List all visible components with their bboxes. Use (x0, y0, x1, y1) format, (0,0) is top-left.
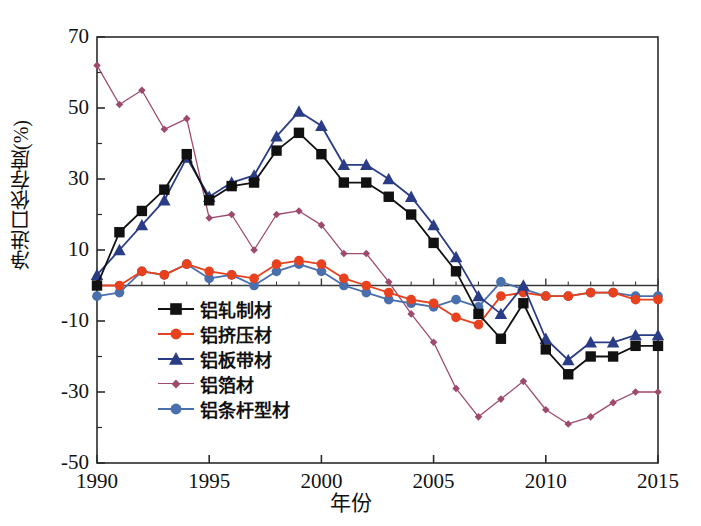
data-point-marker (138, 86, 146, 94)
data-point-marker (273, 211, 281, 219)
legend-item-4[interactable]: 铝箔材 (158, 371, 290, 396)
chart-legend: 铝轧制材铝挤压材铝板带材铝箔材铝条杆型材 (158, 296, 290, 421)
legend-item-5[interactable]: 铝条杆型材 (158, 396, 290, 421)
data-point-marker (450, 251, 463, 262)
data-point-marker (137, 266, 147, 276)
data-point-marker (631, 295, 641, 305)
data-point-marker (382, 173, 395, 184)
data-point-marker (496, 334, 506, 344)
data-point-marker (429, 298, 439, 308)
data-point-marker (451, 313, 461, 323)
legend-item-label: 铝挤压材 (200, 321, 272, 347)
data-point-marker (518, 298, 528, 308)
x-tick-label: 2000 (281, 471, 361, 492)
x-tick-label: 2010 (506, 471, 586, 492)
data-point-marker (228, 211, 236, 219)
x-tick-label: 2015 (618, 471, 698, 492)
data-point-marker (564, 420, 572, 428)
data-point-marker (541, 291, 551, 301)
data-point-marker (317, 259, 327, 269)
data-point-marker (182, 259, 192, 269)
data-point-marker (339, 177, 349, 187)
data-point-marker (161, 126, 169, 134)
data-point-marker (183, 115, 191, 123)
data-point-marker (295, 207, 303, 215)
data-point-marker (272, 259, 282, 269)
data-point-marker (563, 291, 573, 301)
data-point-marker (384, 192, 394, 202)
data-point-marker (428, 238, 438, 248)
data-point-marker (315, 120, 328, 131)
data-point-marker (587, 413, 595, 421)
legend-item-label: 铝条杆型材 (200, 396, 290, 422)
data-point-marker (316, 149, 326, 159)
legend-marker-icon (158, 300, 194, 318)
data-point-marker (474, 320, 484, 330)
data-point-marker (169, 352, 183, 365)
legend-item-1[interactable]: 铝轧制材 (158, 296, 290, 321)
data-point-marker (116, 101, 124, 109)
data-point-marker (250, 246, 258, 254)
data-point-marker (630, 341, 640, 351)
chart-container: 净进口依存度(%) 年份 -50-30-1010305070 199019952… (0, 0, 701, 526)
data-point-marker (93, 62, 101, 70)
data-point-marker (632, 388, 640, 396)
data-point-marker (496, 277, 506, 287)
data-point-marker (653, 341, 663, 351)
data-point-marker (563, 369, 573, 379)
data-point-marker (92, 291, 102, 301)
data-point-marker (249, 274, 259, 284)
y-tick-label: 10 (31, 239, 89, 260)
data-point-marker (205, 214, 213, 222)
data-point-marker (339, 274, 349, 284)
data-point-marker (654, 388, 662, 396)
legend-marker-icon (158, 375, 194, 393)
legend-item-3[interactable]: 铝板带材 (158, 346, 290, 371)
x-tick-label: 1995 (169, 471, 249, 492)
data-point-marker (384, 288, 394, 298)
data-point-marker (653, 295, 663, 305)
legend-marker-icon (158, 325, 194, 343)
data-point-marker (294, 128, 304, 138)
data-point-marker (137, 206, 147, 216)
data-point-marker (204, 195, 214, 205)
data-point-marker (294, 256, 304, 266)
data-point-marker (171, 328, 182, 339)
data-point-marker (158, 194, 171, 205)
data-point-marker (115, 281, 125, 291)
data-point-marker (406, 295, 416, 305)
data-point-marker (361, 177, 371, 187)
data-point-marker (170, 303, 182, 315)
data-point-marker (406, 209, 416, 219)
y-tick-label: 30 (31, 168, 89, 189)
data-point-marker (609, 399, 617, 407)
legend-item-label: 铝轧制材 (200, 296, 272, 322)
legend-marker-icon (158, 350, 194, 368)
legend-item-label: 铝板带材 (200, 346, 272, 372)
y-tick-label: 70 (31, 26, 89, 47)
data-point-marker (182, 149, 192, 159)
data-point-marker (227, 270, 237, 280)
data-point-marker (496, 291, 506, 301)
data-point-marker (608, 351, 618, 361)
data-point-marker (226, 181, 236, 191)
data-point-marker (159, 184, 169, 194)
data-point-marker (608, 288, 618, 298)
data-point-marker (541, 344, 551, 354)
y-tick-label: 50 (31, 97, 89, 118)
data-point-marker (271, 145, 281, 155)
legend-marker-icon (158, 400, 194, 418)
data-point-marker (249, 177, 259, 187)
data-point-marker (159, 270, 169, 280)
x-tick-label: 2005 (394, 471, 474, 492)
data-point-marker (473, 309, 483, 319)
legend-item-2[interactable]: 铝挤压材 (158, 321, 290, 346)
data-point-marker (172, 379, 181, 388)
x-tick-label: 1990 (57, 471, 137, 492)
data-point-marker (204, 266, 214, 276)
data-point-marker (114, 227, 124, 237)
y-tick-label: -10 (31, 310, 89, 331)
y-tick-label: -30 (31, 381, 89, 402)
data-point-marker (585, 351, 595, 361)
data-point-marker (171, 403, 182, 414)
